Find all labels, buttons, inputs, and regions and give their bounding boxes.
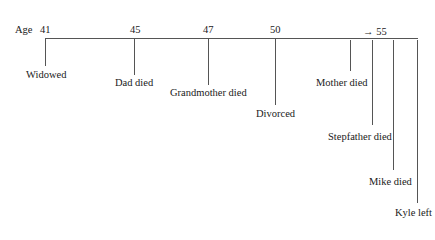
event-line-divorced xyxy=(275,38,276,105)
tick-label-45: 45 xyxy=(130,25,141,36)
event-label-dad-died: Dad died xyxy=(115,78,153,89)
event-line-dad-died xyxy=(134,38,135,75)
tick-label-47: 47 xyxy=(203,25,214,36)
event-line-grandmother-died xyxy=(208,38,209,85)
tick-label-50: 50 xyxy=(270,25,281,36)
event-label-divorced: Divorced xyxy=(256,109,295,120)
event-line-stepfather-died xyxy=(372,40,373,125)
event-label-widowed: Widowed xyxy=(26,70,66,81)
tick-label-55: → 55 xyxy=(363,27,387,38)
event-line-widowed xyxy=(45,38,46,66)
event-label-stepfather-died: Stepfather died xyxy=(328,132,392,143)
event-label-mike-died: Mike died xyxy=(369,177,412,188)
event-line-kyle-left xyxy=(417,40,418,203)
event-label-mother-died: Mother died xyxy=(316,78,368,89)
event-label-grandmother-died: Grandmother died xyxy=(170,88,247,99)
event-label-kyle-left: Kyle left xyxy=(395,208,432,219)
tick-label-41: 41 xyxy=(40,25,51,36)
event-line-mother-died xyxy=(350,40,351,71)
timeline-axis-line xyxy=(45,38,418,39)
event-line-mike-died xyxy=(393,40,394,170)
axis-label: Age xyxy=(15,25,33,36)
